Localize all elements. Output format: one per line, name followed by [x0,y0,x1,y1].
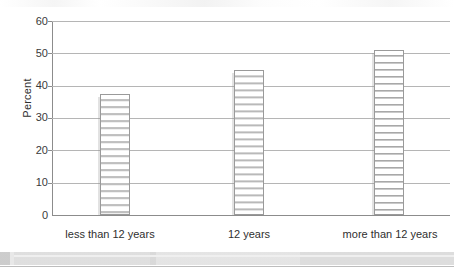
bar-less-than-12-years[interactable] [100,94,130,215]
y-tick-label-40: 40 [26,80,48,91]
x-axis-line [52,215,450,216]
bar-chart: Percent 60 50 40 30 20 10 0 less than 12… [0,0,454,271]
page-edge-bottom [0,267,454,271]
y-tick-label-30: 30 [26,112,48,123]
x-label-12-years: 12 years [184,228,314,241]
x-axis-category-labels: less than 12 years 12 years more than 12… [52,228,450,244]
page-edge-band [0,252,454,265]
y-tick-label-0: 0 [26,210,48,221]
plot-area [52,21,450,215]
page-edge-highlight [14,255,454,257]
y-tick-label-20: 20 [26,145,48,156]
y-tick-label-60: 60 [26,16,48,27]
bar-more-than-12-years[interactable] [374,50,404,215]
y-tick-label-10: 10 [26,177,48,188]
y-axis-tick-labels: 60 50 40 30 20 10 0 [20,21,48,216]
y-tick-label-50: 50 [26,48,48,59]
gridline-60 [52,21,450,22]
x-label-more-than-12-years: more than 12 years [324,228,454,241]
x-label-less-than-12-years: less than 12 years [45,228,175,241]
bar-12-years[interactable] [234,70,264,216]
scan-artifact-top [0,0,454,7]
